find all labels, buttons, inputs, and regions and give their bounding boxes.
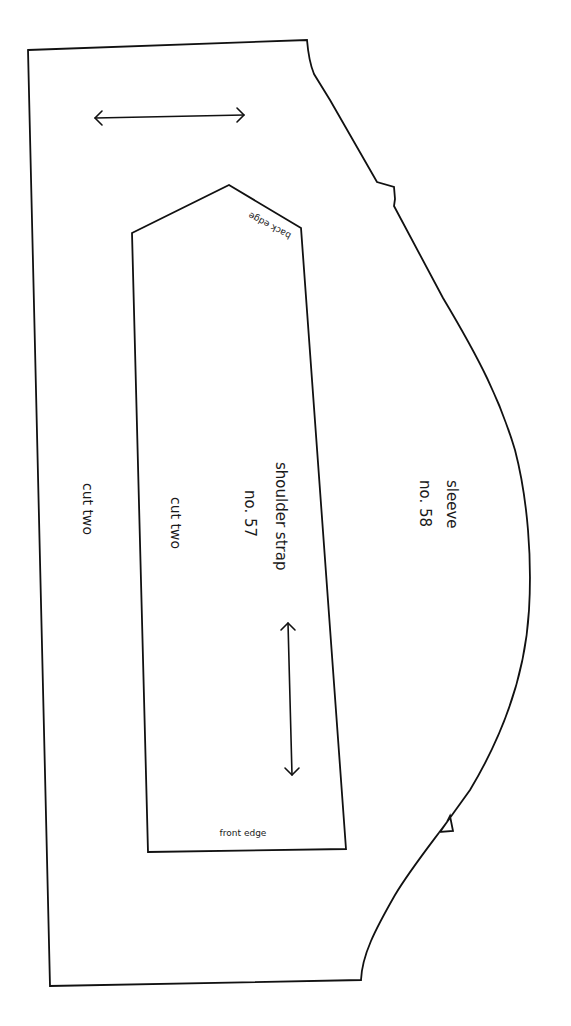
pattern-sheet: back edge front edge shoulder strap no. … bbox=[0, 0, 571, 1026]
shoulder-strap-number: no. 57 bbox=[241, 490, 259, 537]
sleeve-cut-instruction: cut two bbox=[80, 483, 96, 535]
shoulder-strap-title: shoulder strap bbox=[272, 462, 290, 570]
strap-grainline-arrow-icon bbox=[281, 623, 299, 775]
sleeve-title: sleeve bbox=[443, 480, 461, 529]
front-edge-label: front edge bbox=[220, 828, 267, 838]
sleeve-grainline-arrow-icon bbox=[95, 108, 244, 125]
shoulder-strap-outline bbox=[132, 185, 346, 852]
back-edge-label: back edge bbox=[246, 210, 292, 241]
sleeve-number: no. 58 bbox=[416, 480, 434, 527]
shoulder-strap-cut-instruction: cut two bbox=[168, 497, 184, 549]
